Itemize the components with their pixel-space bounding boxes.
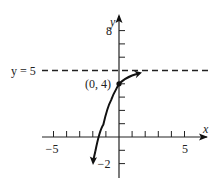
point-label: (0, 4): [85, 77, 111, 91]
tick-label-8: 8: [106, 24, 112, 38]
x-axis-label: x: [202, 122, 209, 136]
tick-label-neg5: −5: [46, 142, 59, 156]
tick-label-5: 5: [182, 142, 188, 156]
tick-label-neg2: −2: [98, 157, 111, 171]
y-axis: [116, 14, 126, 178]
point-marker: [116, 81, 121, 86]
asymptote-label: y = 5: [11, 64, 36, 78]
graph: y x 8 −2 −5 5 y = 5 (0, 4): [0, 0, 218, 182]
x-axis: [42, 131, 208, 141]
y-ticks: [119, 31, 125, 164]
